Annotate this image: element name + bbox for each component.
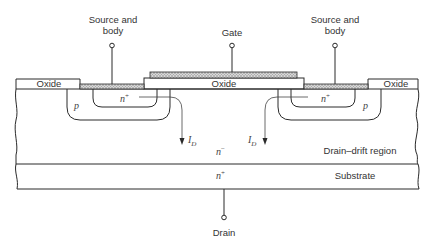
drain-terminal [222, 215, 227, 220]
drain-current-left-label: ID [188, 134, 196, 145]
source-left-terminal [110, 43, 115, 48]
substrate-label: Substrate [320, 170, 390, 181]
source-left-label-line2: body [82, 25, 144, 36]
nplus-substrate-label: n+ [216, 170, 225, 181]
oxide-center-label: Oxide [200, 78, 248, 89]
source-left-label: Source and body [82, 14, 144, 36]
p-right-label: p [363, 100, 368, 111]
source-metal-left [80, 84, 144, 89]
drain-label: Drain [204, 227, 244, 238]
current-path-left [139, 97, 182, 140]
drain-current-right-label: ID [248, 134, 256, 145]
source-left-label-line1: Source and [82, 14, 144, 25]
gate-terminal [230, 43, 235, 48]
p-left-label: p [74, 100, 79, 111]
current-arrow-right-icon [263, 138, 268, 145]
current-arrow-left-icon [180, 138, 185, 145]
gate-label: Gate [212, 27, 252, 38]
source-right-label-line1: Source and [304, 14, 366, 25]
oxide-right-label: Oxide [374, 78, 418, 89]
nplus-left-label: n+ [120, 93, 129, 104]
source-right-terminal [333, 43, 338, 48]
oxide-left-label: Oxide [20, 78, 78, 89]
source-right-label-line2: body [304, 25, 366, 36]
source-metal-right [304, 84, 368, 89]
nminus-label: n− [216, 146, 225, 157]
left-break-edge [15, 89, 17, 189]
source-right-label: Source and body [304, 14, 366, 36]
nplus-right-label: n+ [321, 93, 330, 104]
right-break-edge [415, 89, 419, 189]
current-path-right [265, 97, 308, 140]
drift-region-label: Drain–drift region [310, 145, 410, 156]
